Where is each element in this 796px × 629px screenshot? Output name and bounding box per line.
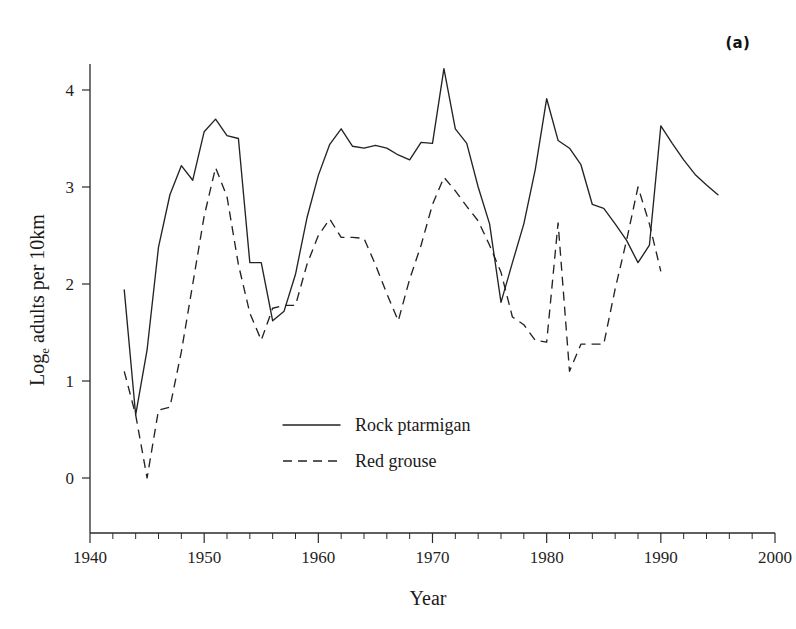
- x-tick-label: 2000: [758, 548, 792, 567]
- x-axis-tick-labels: 1940195019601970198019902000: [73, 548, 792, 567]
- y-axis-ticks: [82, 90, 90, 478]
- line-chart: 01234 1940195019601970198019902000 Year …: [0, 0, 796, 629]
- x-tick-label: 1970: [416, 548, 450, 567]
- y-axis-title: Loge adults per 10km: [26, 214, 52, 386]
- y-tick-label: 1: [66, 372, 75, 391]
- y-tick-label: 3: [66, 178, 75, 197]
- cropped-text-artifact: [70, 0, 240, 10]
- x-axis-title: Year: [410, 587, 447, 609]
- y-axis-tick-labels: 01234: [66, 81, 75, 488]
- x-tick-label: 1950: [187, 548, 221, 567]
- y-axis-title-main: Log: [26, 354, 49, 386]
- y-tick-label: 0: [66, 469, 75, 488]
- legend-label-red-grouse: Red grouse: [355, 451, 436, 471]
- series-line-rock-ptarmigan: [124, 69, 718, 415]
- x-axis-ticks: [90, 533, 775, 543]
- x-tick-label: 1940: [73, 548, 107, 567]
- y-tick-label: 2: [66, 275, 75, 294]
- panel-label: (a): [726, 34, 750, 52]
- y-axis-title-rest: adults per 10km: [26, 214, 49, 348]
- y-tick-label: 4: [66, 81, 75, 100]
- x-tick-label: 1960: [301, 548, 335, 567]
- figure-panel-a: (a) 01234 1940195019601970198019902000 Y…: [0, 0, 796, 629]
- x-tick-label: 1980: [530, 548, 564, 567]
- legend: Rock ptarmigan Red grouse: [283, 415, 470, 471]
- svg-text:Loge adults per 10km: Loge adults per 10km: [26, 214, 52, 386]
- x-tick-label: 1990: [644, 548, 678, 567]
- legend-label-rock-ptarmigan: Rock ptarmigan: [355, 415, 470, 435]
